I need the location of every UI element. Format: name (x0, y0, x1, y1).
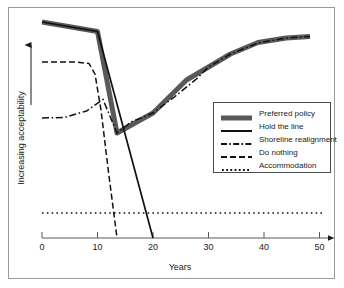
solid-line-swatch (220, 122, 253, 132)
legend-item-shoreline-realignment: Shoreline realignment (214, 133, 330, 146)
dotted-line-swatch (220, 161, 253, 171)
legend-item-preferred-policy: Preferred policy (214, 107, 330, 120)
x-tick-label-10: 10 (85, 242, 111, 252)
x-tick-label-30: 30 (196, 242, 222, 252)
thick-gray-line-swatch (220, 109, 253, 119)
x-tick-label-20: 20 (140, 242, 166, 252)
chart-legend: Preferred policy Hold the line Shoreline… (213, 102, 331, 173)
x-axis-title: Years (150, 262, 210, 272)
legend-label-hold-the-line: Hold the line (259, 122, 303, 131)
legend-item-accommodation: Accommodation (214, 159, 330, 172)
x-tick-label-50: 50 (307, 242, 333, 252)
legend-label-shoreline-realignment: Shoreline realignment (259, 135, 337, 144)
legend-label-accommodation: Accommodation (259, 161, 316, 170)
series-hold-the-line (42, 22, 153, 238)
x-axis-line (42, 232, 328, 238)
legend-label-do-nothing: Do nothing (259, 148, 298, 157)
legend-label-preferred-policy: Preferred policy (259, 109, 315, 118)
series-do-nothing (42, 62, 117, 238)
dashed-line-swatch (220, 148, 253, 158)
y-axis-title: Increasing acceptability (16, 68, 26, 208)
legend-item-do-nothing: Do nothing (214, 146, 330, 159)
x-tick-label-0: 0 (29, 242, 55, 252)
figure-container: 0 10 20 30 40 50 Years Increasing accept… (0, 0, 344, 288)
dash-dot-line-swatch (220, 135, 253, 145)
x-tick-label-40: 40 (251, 242, 277, 252)
legend-item-hold-the-line: Hold the line (214, 120, 330, 133)
